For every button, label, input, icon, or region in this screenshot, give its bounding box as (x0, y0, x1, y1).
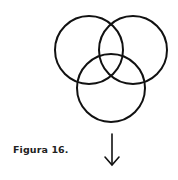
circle-right (99, 16, 167, 84)
figure-caption: Figura 16. (13, 144, 69, 155)
circle-bottom (77, 54, 145, 122)
arrow-down-icon (105, 134, 119, 165)
circle-left (55, 16, 123, 84)
